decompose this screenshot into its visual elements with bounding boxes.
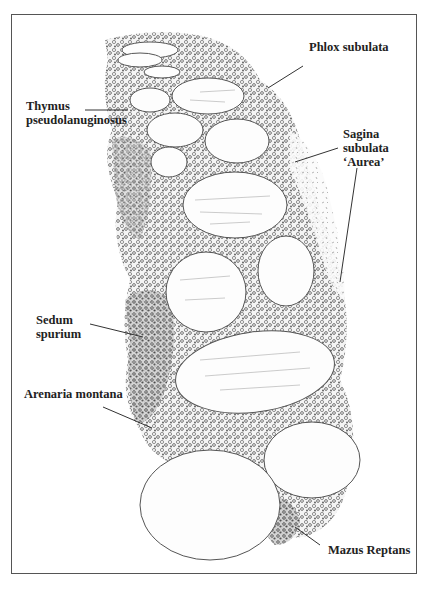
label-arenaria-montana: Arenaria montana — [24, 387, 123, 401]
label-line: Mazus Reptans — [328, 543, 410, 557]
label-sagina-subulata-aurea: Sagina subulata ‘Aurea’ — [343, 127, 389, 169]
label-phlox-subulata: Phlox subulata — [309, 40, 389, 54]
label-line: Sedum — [36, 313, 81, 327]
label-line: subulata — [343, 141, 389, 155]
label-line: Phlox subulata — [309, 40, 389, 54]
label-line: spurium — [36, 327, 81, 341]
label-sedum-spurium: Sedum spurium — [36, 313, 81, 341]
label-mazus-reptans: Mazus Reptans — [328, 543, 410, 557]
label-line: ‘Aurea’ — [343, 155, 389, 169]
label-line: Thymus — [26, 99, 127, 113]
label-line: Arenaria montana — [24, 387, 123, 401]
label-line: Sagina — [343, 127, 389, 141]
stepping-stone-path-illustration — [0, 0, 427, 589]
label-line: pseudolanuginosus — [26, 113, 127, 127]
label-thymus-pseudolanuginosus: Thymus pseudolanuginosus — [26, 99, 127, 127]
